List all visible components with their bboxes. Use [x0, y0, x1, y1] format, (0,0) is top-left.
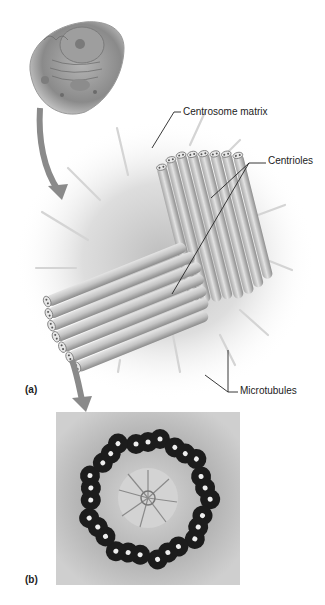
panel-label-b: (b) — [25, 575, 38, 585]
panel-label-a: (a) — [25, 385, 37, 395]
label-microtubules: Microtubules — [240, 386, 297, 396]
centriole-cross-section-micrograph — [56, 412, 240, 585]
label-centrosome-matrix: Centrosome matrix — [183, 107, 267, 117]
animal-cell-illustration — [30, 22, 124, 114]
label-centrioles: Centrioles — [268, 156, 313, 166]
